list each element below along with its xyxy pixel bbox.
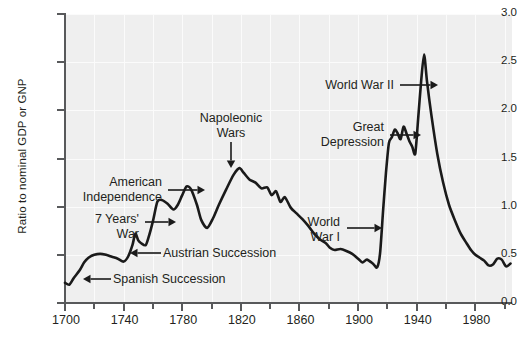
- annotation-arrow-spanish-succession: [75, 271, 119, 287]
- y-axis-tick-mark: [57, 206, 65, 208]
- x-axis-minor-tick-mark: [328, 304, 330, 309]
- annotation-line: World: [288, 215, 340, 230]
- annotation-line: Napoleonic: [190, 111, 272, 126]
- x-axis-tick-mark: [181, 304, 183, 311]
- x-axis-tick-mark: [474, 304, 476, 311]
- annotation-line: Great: [310, 120, 384, 135]
- x-axis-tick-mark: [123, 304, 125, 311]
- annotation-line: Spanish Succession: [113, 272, 226, 287]
- annotation-arrow-napoleonic-wars: [223, 134, 239, 176]
- x-axis-minor-tick-mark: [152, 304, 154, 309]
- x-axis-minor-tick-mark: [445, 304, 447, 309]
- y-axis-tick-mark: [57, 254, 65, 256]
- y-axis-tick-mark: [57, 158, 65, 160]
- annotation-label-seven-years-war: 7 Years'War: [63, 212, 139, 241]
- annotation-label-world-war-ii: World War II: [309, 78, 394, 93]
- annotation-line: Independence: [64, 190, 162, 205]
- x-axis-tick-mark: [416, 304, 418, 311]
- annotation-label-world-war-i: WorldWar I: [288, 215, 340, 244]
- annotation-line: 7 Years': [63, 212, 139, 227]
- annotation-line: American: [64, 175, 162, 190]
- x-axis-tick-mark: [357, 304, 359, 311]
- annotation-label-american-independence: AmericanIndependence: [64, 175, 162, 204]
- annotation-line: War: [63, 227, 139, 242]
- x-axis-tick-mark: [64, 304, 66, 311]
- y-axis-tick-mark: [57, 13, 65, 15]
- x-axis-minor-tick-mark: [504, 304, 506, 309]
- annotation-arrow-austrian-succession: [122, 245, 169, 261]
- annotation-arrow-seven-years-war: [137, 214, 184, 230]
- annotation-label-great-depression: GreatDepression: [310, 120, 384, 149]
- y-axis-title: Ratio to nominal GDP or GNP: [16, 46, 28, 266]
- annotation-arrow-great-depression: [382, 127, 429, 143]
- x-axis-minor-tick-mark: [386, 304, 388, 309]
- annotation-arrow-world-war-i: [339, 220, 390, 236]
- annotation-line: Depression: [310, 135, 384, 150]
- x-axis-minor-tick-mark: [93, 304, 95, 309]
- annotation-line: Austrian Succession: [163, 246, 276, 261]
- x-axis-minor-tick-mark: [269, 304, 271, 309]
- x-axis-tick-label: 1980: [441, 313, 511, 327]
- y-axis-tick-mark: [57, 61, 65, 63]
- x-axis-tick-mark: [240, 304, 242, 311]
- annotation-line: World War II: [309, 78, 394, 93]
- annotation-arrow-world-war-ii: [392, 77, 446, 93]
- annotation-label-spanish-succession: Spanish Succession: [113, 272, 226, 287]
- annotation-label-austrian-succession: Austrian Succession: [163, 246, 276, 261]
- annotation-arrow-american-independence: [160, 182, 213, 198]
- x-axis-minor-tick-mark: [211, 304, 213, 309]
- y-axis-tick-mark: [57, 109, 65, 111]
- annotation-line: War I: [288, 230, 340, 245]
- x-axis-tick-mark: [298, 304, 300, 311]
- chart-figure: Ratio to nominal GDP or GNP 0.00.51.01.5…: [0, 0, 517, 340]
